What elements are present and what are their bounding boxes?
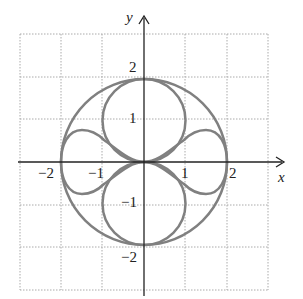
y-tick-1: 1 (129, 111, 137, 126)
x-tick-m1: −1 (88, 166, 104, 181)
polar-plot (0, 0, 303, 299)
y-axis-label: y (126, 10, 133, 25)
y-tick-2: 2 (129, 60, 137, 75)
x-tick-1: 1 (181, 166, 189, 181)
x-tick-m2: −2 (38, 166, 54, 181)
x-tick-2: 2 (229, 166, 237, 181)
x-axis-label: x (278, 170, 285, 185)
y-tick-m1: −1 (121, 195, 137, 210)
y-tick-m2: −2 (121, 250, 137, 265)
axes (18, 16, 284, 296)
